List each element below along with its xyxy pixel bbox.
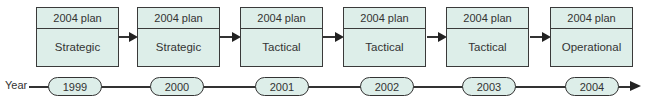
plan-type: Strategic xyxy=(37,29,118,65)
year-pill: 2001 xyxy=(255,77,309,96)
plan-box-4: 2004 plan Tactical xyxy=(343,7,426,67)
arrow-icon xyxy=(530,36,549,38)
plan-box-2: 2004 plan Strategic xyxy=(137,7,220,67)
plan-header: 2004 plan xyxy=(138,8,219,29)
plan-header: 2004 plan xyxy=(344,8,425,29)
plan-type: Strategic xyxy=(138,29,219,65)
plan-box-5: 2004 plan Tactical xyxy=(446,7,529,67)
plan-type: Tactical xyxy=(344,29,425,65)
arrow-icon xyxy=(119,36,136,38)
arrow-icon xyxy=(427,36,445,38)
year-pill: 2003 xyxy=(462,77,516,96)
plan-type: Tactical xyxy=(241,29,322,65)
year-pill: 1999 xyxy=(48,77,102,96)
plan-header: 2004 plan xyxy=(37,8,118,29)
plan-type: Tactical xyxy=(447,29,528,65)
plan-box-1: 2004 plan Strategic xyxy=(36,7,119,67)
plan-type: Operational xyxy=(551,29,632,65)
arrow-icon xyxy=(220,36,239,38)
plan-box-3: 2004 plan Tactical xyxy=(240,7,323,67)
plan-box-6: 2004 plan Operational xyxy=(550,7,633,67)
arrow-icon xyxy=(323,36,342,38)
year-pill: 2000 xyxy=(150,77,204,96)
year-pill: 2004 xyxy=(565,77,619,96)
year-axis-label: Year xyxy=(5,79,27,91)
arrow-head-icon xyxy=(630,81,641,91)
plan-header: 2004 plan xyxy=(551,8,632,29)
plan-header: 2004 plan xyxy=(447,8,528,29)
year-pill: 2002 xyxy=(360,77,414,96)
plan-header: 2004 plan xyxy=(241,8,322,29)
timeline-line xyxy=(29,86,634,88)
